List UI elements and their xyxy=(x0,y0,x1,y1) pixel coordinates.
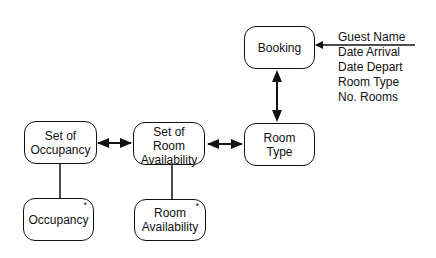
input-no-rooms: No. Rooms xyxy=(338,90,405,105)
room-availability-node: * Room Availability xyxy=(134,199,206,241)
booking-input-list: Guest Name Date Arrival Date Depart Room… xyxy=(338,30,405,105)
input-date-depart: Date Depart xyxy=(338,60,405,75)
node-label: Booking xyxy=(258,41,301,55)
set-of-occupancy-node: Set of Occupancy xyxy=(24,121,97,164)
occupancy-node: * Occupancy xyxy=(23,198,94,241)
booking-node: Booking xyxy=(244,26,315,69)
node-label: Room Availability xyxy=(142,206,198,234)
multiplicity-marker: * xyxy=(195,202,199,211)
input-guest-name: Guest Name xyxy=(338,30,405,45)
input-date-arrival: Date Arrival xyxy=(338,45,405,60)
set-of-room-availability-node: Set of Room Availability xyxy=(133,122,205,165)
multiplicity-marker: * xyxy=(83,201,87,210)
node-label: Room Type xyxy=(263,131,295,159)
node-label: Occupancy xyxy=(28,213,88,227)
node-label: Set of Room Availability xyxy=(141,125,197,167)
input-room-type: Room Type xyxy=(338,75,405,90)
node-label: Set of Occupancy xyxy=(30,129,90,157)
room-type-node: Room Type xyxy=(244,123,315,166)
